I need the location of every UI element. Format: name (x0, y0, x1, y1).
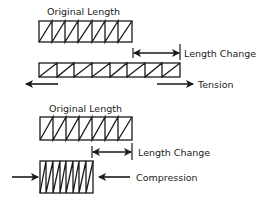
compression-label: Compression (136, 172, 198, 183)
length-change-bracket-2 (92, 143, 132, 160)
original-length-label: Original Length (47, 6, 120, 17)
length-change-label-2: Length Change (138, 147, 210, 158)
tension-label: Tension (197, 79, 233, 90)
tension-panel: Original Length Length Change Tension (26, 6, 256, 90)
original-spring-block-2 (40, 117, 132, 140)
length-change-label: Length Change (184, 48, 256, 59)
original-spring-block (39, 21, 132, 42)
original-length-label-2: Original Length (49, 103, 122, 114)
compression-panel: Original Length Length Change Compressio… (12, 103, 210, 193)
compressed-spring-block (40, 161, 93, 193)
stretched-spring-block (39, 63, 180, 77)
tension-compression-diagram: Original Length Length Change Tension Or… (0, 0, 265, 203)
length-change-bracket (133, 44, 180, 60)
